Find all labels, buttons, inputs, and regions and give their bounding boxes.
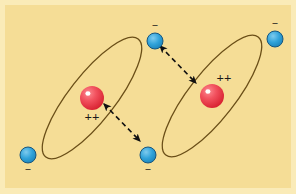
electron-right-bottom [140,147,156,163]
electron-left-bottom [20,147,36,163]
nucleus-left [80,86,104,110]
electron-right-top [267,31,283,47]
electron-right-top-charge-label: – [272,17,279,28]
electron-right-bottom-sphere [140,147,156,163]
nucleus-left-highlight [85,91,90,96]
electron-left-top [147,33,163,49]
nucleus-left-charge-label: ++ [85,109,100,124]
electron-left-bottom-charge-label: – [25,163,32,174]
nucleus-right-highlight [205,89,210,94]
electron-left-top-charge-label: – [152,19,159,30]
nucleus-right-sphere [200,84,224,108]
electron-left-bottom-sphere [20,147,36,163]
electron-right-top-sphere [267,31,283,47]
electron-left-top-sphere [147,33,163,49]
diagram-figure: ++ ++ – – – – [0,0,296,194]
nucleus-right-charge-label: ++ [217,70,232,85]
electron-right-bottom-charge-label: – [145,163,152,174]
diagram-canvas: ++ ++ – – – – [0,0,296,194]
nucleus-right [200,84,224,108]
nucleus-left-sphere [80,86,104,110]
